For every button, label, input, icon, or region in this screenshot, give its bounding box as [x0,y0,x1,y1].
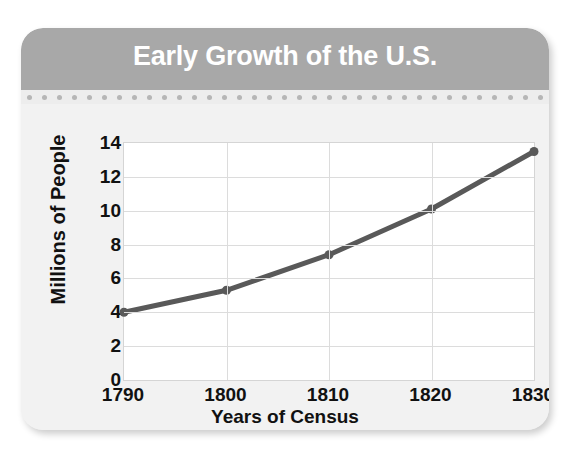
separator-dot [492,95,497,100]
separator-dot [192,95,197,100]
separator-dot [267,95,272,100]
y-tick-label: 10 [100,200,121,219]
separator-dot [207,95,212,100]
separator-dot [72,95,77,100]
separator-dot [342,95,347,100]
separator-dot [312,95,317,100]
separator-dot [327,95,332,100]
plot-area [123,142,535,381]
separator-dot [27,95,32,100]
y-tick-label: 8 [110,234,121,253]
y-tick-label: 2 [110,336,121,355]
separator-dot [372,95,377,100]
chart-header-banner: Early Growth of the U.S. [21,28,549,90]
y-tick-label: 6 [110,268,121,287]
separator-dot [402,95,407,100]
separator-dot [477,95,482,100]
chart-title: Early Growth of the U.S. [21,41,549,72]
x-tick-label: 1830 [512,384,549,406]
separator-dot [462,95,467,100]
separator-dot [417,95,422,100]
separator-dot [538,95,543,100]
x-axis-title: Years of Census [21,406,549,428]
separator-dot [147,95,152,100]
screenshot-root: Early Growth of the U.S. Millions of Peo… [0,0,585,472]
gridline-vertical [227,143,228,380]
separator-dot [297,95,302,100]
data-point-marker [530,147,539,156]
chart-card: Early Growth of the U.S. Millions of Peo… [21,28,549,430]
y-tick-label: 4 [110,302,121,321]
separator-dot [508,95,513,100]
separator-dot [282,95,287,100]
x-tick-label: 1810 [307,384,349,406]
separator-dot [387,95,392,100]
separator-dot [177,95,182,100]
separator-dot [432,95,437,100]
dotted-separator [21,90,549,104]
separator-dot [252,95,257,100]
separator-dot [162,95,167,100]
separator-dot [237,95,242,100]
separator-dot [87,95,92,100]
y-tick-label: 12 [100,166,121,185]
separator-dot [447,95,452,100]
x-tick-label: 1800 [204,384,246,406]
separator-dot [117,95,122,100]
x-tick-label: 1790 [102,384,144,406]
y-tick-label: 14 [100,133,121,152]
gridline-vertical [329,143,330,380]
y-axis-title: Millions of People [47,120,70,320]
separator-dot [132,95,137,100]
separator-dot [357,95,362,100]
chart-body: Millions of People 02468101214 179018001… [21,104,549,430]
gridline-vertical [432,143,433,380]
separator-dot [57,95,62,100]
separator-dot [523,95,528,100]
separator-dot [102,95,107,100]
separator-dot [222,95,227,100]
y-axis-tick-labels: 02468101214 [79,142,121,379]
separator-dot [42,95,47,100]
x-tick-label: 1820 [409,384,451,406]
